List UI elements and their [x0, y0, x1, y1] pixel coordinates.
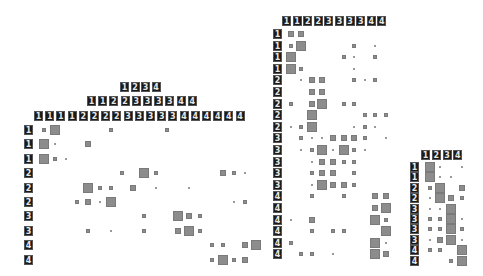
digit-row-label-icon: 1	[24, 154, 33, 164]
matrix-cell	[319, 159, 325, 165]
digit-header-icon: 4	[180, 111, 189, 121]
matrix-cell	[198, 214, 202, 218]
digit-header-icon: 3	[335, 16, 344, 26]
digit-row-label-icon: 3	[273, 180, 282, 190]
digit-row-label-icon: 4	[24, 240, 33, 250]
matrix-cell	[385, 242, 387, 244]
matrix-cell	[289, 102, 293, 106]
digit-row-label-icon: 1	[273, 64, 282, 74]
matrix-cell	[461, 239, 463, 241]
matrix-cell	[330, 159, 336, 165]
matrix-cell	[188, 187, 190, 189]
matrix-cell	[437, 237, 443, 243]
matrix-cell	[461, 166, 463, 168]
digit-header-icon: 1	[282, 16, 291, 26]
digit-header-icon: 1	[87, 96, 96, 106]
digit-row-label-icon: 3	[273, 145, 282, 155]
matrix-cell	[317, 99, 327, 109]
matrix-cell	[300, 149, 302, 151]
matrix-cell	[446, 224, 456, 234]
matrix-cell	[381, 226, 391, 236]
digit-row-label-icon: 4	[273, 238, 282, 248]
matrix-cell	[374, 126, 376, 128]
digit-header-icon: 2	[303, 16, 312, 26]
matrix-cell	[298, 31, 304, 37]
digit-row-label-icon: 1	[273, 41, 282, 51]
matrix-cell	[311, 161, 313, 163]
matrix-cell	[373, 55, 377, 59]
digit-header-icon: 3	[165, 96, 174, 106]
matrix-cell	[435, 193, 445, 203]
matrix-cell	[457, 245, 467, 255]
matrix-cell	[363, 113, 367, 117]
matrix-cell	[290, 219, 292, 221]
matrix-cell	[65, 158, 67, 160]
matrix-cell	[86, 229, 90, 233]
matrix-cell	[311, 184, 313, 186]
matrix-cell	[286, 52, 296, 62]
digit-row-label-icon: 4	[24, 255, 33, 265]
matrix-cell	[310, 194, 314, 198]
matrix-cell	[331, 229, 335, 233]
matrix-cell	[310, 252, 314, 256]
matrix-cell	[330, 182, 336, 188]
matrix-cell	[439, 166, 441, 168]
matrix-cell	[385, 137, 387, 139]
matrix-cell	[449, 259, 453, 263]
matrix-cell	[307, 110, 317, 120]
matrix-cell	[373, 113, 377, 117]
matrix-cell	[299, 136, 303, 140]
digit-header-icon: 4	[202, 111, 211, 121]
matrix-cell	[244, 172, 246, 174]
matrix-cell	[198, 229, 202, 233]
digit-header-icon: 3	[132, 96, 141, 106]
digit-row-label-icon: 3	[273, 157, 282, 167]
digit-header-icon: 3	[157, 111, 166, 121]
matrix-cell	[460, 227, 464, 231]
matrix-cell	[130, 185, 136, 191]
matrix-cell	[311, 137, 313, 139]
matrix-cell	[289, 241, 293, 245]
matrix-cell	[342, 160, 346, 164]
matrix-cell	[310, 171, 314, 175]
matrix-cell	[428, 186, 432, 190]
digit-row-label-icon: 3	[273, 133, 282, 143]
matrix-cell	[363, 136, 367, 140]
digit-row-label-icon: 3	[410, 235, 419, 245]
matrix-cell	[290, 126, 292, 128]
matrix-cell	[438, 227, 442, 231]
digit-row-label-icon: 3	[24, 226, 33, 236]
matrix-cell	[296, 41, 306, 51]
matrix-cell	[352, 44, 356, 48]
digit-header-icon: 4	[213, 111, 222, 121]
matrix-cell	[39, 139, 49, 149]
matrix-cell	[110, 230, 112, 232]
matrix-cell	[142, 214, 146, 218]
digit-header-icon: 3	[141, 82, 150, 92]
matrix-cell	[342, 55, 346, 59]
matrix-cell	[54, 143, 56, 145]
matrix-cell	[446, 214, 456, 224]
matrix-cell	[352, 171, 356, 175]
matrix-cell	[309, 101, 315, 107]
matrix-cell	[330, 135, 336, 141]
matrix-cell	[332, 149, 334, 151]
matrix-cell	[99, 201, 101, 203]
matrix-cell	[310, 229, 314, 233]
digit-row-label-icon: 1	[24, 125, 33, 135]
digit-header-icon: 3	[124, 111, 133, 121]
digit-row-label-icon: 4	[273, 215, 282, 225]
matrix-cell	[120, 171, 124, 175]
digit-header-icon: 1	[45, 111, 54, 121]
digit-row-label-icon: 1	[273, 52, 282, 62]
matrix-cell	[221, 243, 225, 247]
matrix-cell	[384, 113, 388, 117]
matrix-cell	[352, 102, 356, 106]
matrix-cell	[364, 79, 366, 81]
matrix-cell	[446, 235, 456, 245]
matrix-cell	[428, 217, 432, 221]
matrix-cell	[342, 102, 346, 106]
digit-header-icon: 4	[224, 111, 233, 121]
digit-header-icon: 3	[324, 16, 333, 26]
matrix-cell	[155, 187, 157, 189]
